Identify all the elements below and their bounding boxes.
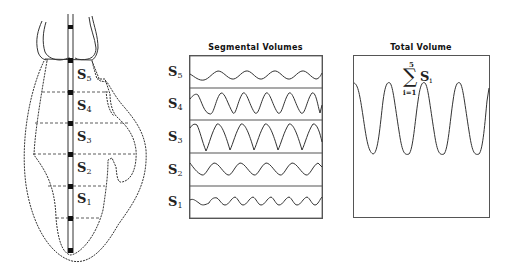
segment-row-label-s4: S4 [168,96,182,112]
segmental-waveforms [189,55,323,219]
segment-row-label-s3: S3 [168,129,182,145]
heart-segment-label-s1: S1 [77,191,91,207]
heart-diagram: S5 S4 S3 S2 S1 [0,0,170,273]
heart-segment-label-s4: S4 [77,98,91,114]
sigma-symbol: ∑ [403,66,417,86]
heart-segment-label-s5: S5 [77,67,91,83]
sum-lower-limit: i=1 [403,88,416,97]
total-volume-chart: 5 ∑ Si i=1 [353,55,490,218]
segmental-volumes-chart [189,55,323,219]
sum-term: Si [420,69,432,85]
segment-row-label-s2: S2 [168,162,182,178]
heart-segment-label-s2: S2 [77,160,91,176]
segment-row-label-s5: S5 [168,64,182,80]
segmental-volumes-title: Segmental Volumes [189,43,322,52]
segment-row-label-s1: S1 [168,194,182,210]
heart-segment-label-s3: S3 [77,129,91,145]
total-volume-title: Total Volume [353,43,489,52]
summation-formula: 5 ∑ Si i=1 [403,60,463,102]
